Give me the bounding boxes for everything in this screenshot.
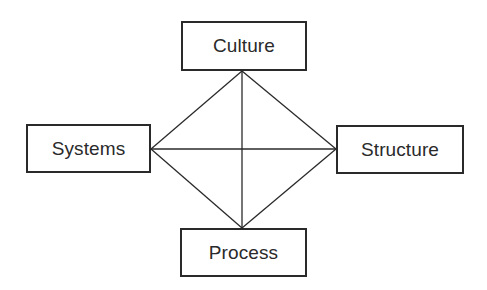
edge-systems-culture (151, 71, 242, 149)
node-label: Structure (361, 139, 439, 161)
node-label: Systems (52, 138, 126, 160)
node-systems: Systems (26, 124, 151, 173)
edge-culture-structure (242, 71, 336, 149)
node-label: Culture (213, 35, 275, 57)
edge-structure-process (242, 149, 336, 228)
node-culture: Culture (181, 21, 307, 71)
node-structure: Structure (336, 125, 464, 174)
node-process: Process (180, 228, 307, 277)
edge-process-systems (151, 149, 242, 228)
node-label: Process (209, 242, 278, 264)
